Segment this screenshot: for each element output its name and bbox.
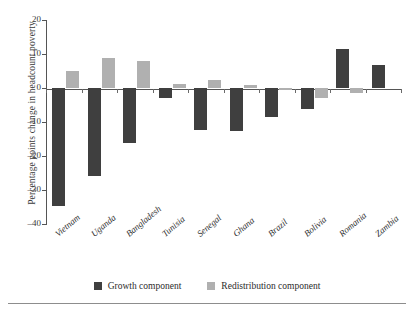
y-tick-label: –40 <box>28 218 42 228</box>
x-tick-mark <box>366 89 367 93</box>
y-tick-label: –30 <box>28 184 42 194</box>
bar-uganda-redistribution <box>102 58 115 88</box>
bar-group-senegal <box>194 20 221 224</box>
x-tick-mark <box>259 89 260 93</box>
x-tick-mark <box>330 89 331 93</box>
bar-bolivia-redistribution <box>315 88 328 98</box>
y-tick-mark <box>42 156 47 157</box>
bar-senegal-redistribution <box>208 80 221 89</box>
chart-figure: Percentage points change in headcount po… <box>0 0 414 317</box>
y-tick-label: 0 <box>37 82 42 92</box>
bar-group-bolivia <box>301 20 328 224</box>
bar-romania-redistribution <box>350 88 363 93</box>
plot-area: 20100–10–20–30–40 <box>46 20 401 224</box>
y-tick-mark <box>42 122 47 123</box>
x-tick-mark <box>188 89 189 93</box>
bar-vietnam-redistribution <box>66 71 79 88</box>
legend-item[interactable]: Growth component <box>94 281 182 291</box>
y-tick-label: 20 <box>32 14 41 24</box>
bar-vietnam-growth <box>52 88 65 206</box>
bar-bolivia-growth <box>301 88 314 109</box>
bottom-divider <box>8 303 406 304</box>
y-tick-mark <box>42 190 47 191</box>
y-tick-mark <box>42 224 47 225</box>
bar-tunisia-growth <box>159 88 172 98</box>
bar-tunisia-redistribution <box>173 84 186 88</box>
y-tick-mark <box>42 54 47 55</box>
bar-ghana-growth <box>230 88 243 131</box>
bar-bangladesh-growth <box>123 88 136 143</box>
bar-senegal-growth <box>194 88 207 130</box>
bar-zambia-growth <box>372 65 385 88</box>
y-tick-label: 10 <box>32 48 41 58</box>
legend-item[interactable]: Redistribution component <box>207 281 320 291</box>
x-tick-mark <box>46 89 47 93</box>
bar-group-zambia <box>372 20 399 224</box>
bar-group-uganda <box>88 20 115 224</box>
bar-group-brazil <box>265 20 292 224</box>
bar-romania-growth <box>336 49 349 88</box>
legend-label: Growth component <box>108 281 182 291</box>
bar-brazil-redistribution <box>279 88 292 90</box>
x-tick-mark <box>82 89 83 93</box>
x-tick-mark <box>295 89 296 93</box>
x-tick-mark <box>153 89 154 93</box>
bar-bangladesh-redistribution <box>137 61 150 88</box>
legend-swatch-icon <box>94 282 102 290</box>
y-tick-label: –20 <box>28 150 42 160</box>
chart-legend: Growth componentRedistribution component <box>0 281 414 291</box>
x-tick-mark <box>401 89 402 93</box>
bar-brazil-growth <box>265 88 278 117</box>
bar-group-ghana <box>230 20 257 224</box>
bar-group-romania <box>336 20 363 224</box>
bar-group-tunisia <box>159 20 186 224</box>
legend-swatch-icon <box>207 282 215 290</box>
x-tick-mark <box>224 89 225 93</box>
bar-group-vietnam <box>52 20 79 224</box>
bar-ghana-redistribution <box>244 85 257 88</box>
bar-group-bangladesh <box>123 20 150 224</box>
bar-uganda-growth <box>88 88 101 176</box>
legend-label: Redistribution component <box>221 281 320 291</box>
y-tick-mark <box>42 20 47 21</box>
y-tick-label: –10 <box>28 116 42 126</box>
x-tick-mark <box>117 89 118 93</box>
